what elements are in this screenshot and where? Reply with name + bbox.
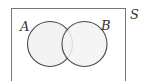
set-a-label: A [19, 19, 29, 34]
venn-diagram: A B S [0, 0, 143, 81]
universal-set-label: S [130, 7, 139, 22]
set-b-label: B [100, 18, 111, 33]
